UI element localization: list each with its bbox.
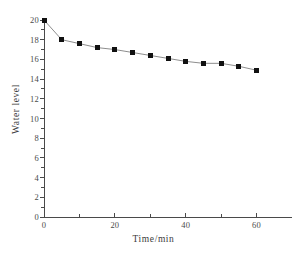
data-point-marker [183,59,188,64]
y-tick-minor [41,207,44,208]
data-point-marker [148,53,153,58]
y-tick-major [40,177,44,178]
x-tick-label: 20 [103,220,127,230]
y-tick-major [40,79,44,80]
data-point-marker [59,37,64,42]
y-tick-label: 10 [30,114,39,124]
data-point-marker [201,61,206,66]
y-tick-label: 20 [30,15,39,25]
x-tick-major [44,213,45,217]
x-tick-label: 40 [174,220,198,230]
data-point-marker [130,50,135,55]
y-tick-major [40,39,44,40]
data-point-marker [95,45,100,50]
y-tick-minor [41,49,44,50]
data-point-marker [219,61,224,66]
y-tick-major [40,98,44,99]
y-tick-minor [41,187,44,188]
y-tick-minor [41,128,44,129]
y-tick-minor [41,88,44,89]
x-tick-major [256,213,257,217]
data-point-marker [77,41,82,46]
x-axis-title: Time/min [0,234,307,244]
y-tick-label: 4 [35,173,39,183]
x-tick-major [185,213,186,217]
y-tick-minor [41,69,44,70]
x-tick-minor [221,214,222,217]
x-tick-label: 0 [32,220,56,230]
x-tick-minor [150,214,151,217]
y-tick-label: 8 [35,133,39,143]
x-axis-line [44,217,292,218]
y-axis-title: Water level [11,49,21,169]
y-tick-label: 12 [30,94,39,104]
y-tick-minor [41,29,44,30]
y-tick-label: 6 [35,153,39,163]
y-tick-major [40,118,44,119]
data-point-marker [112,47,117,52]
y-tick-major [40,157,44,158]
y-tick-label: 14 [30,74,39,84]
y-tick-minor [41,148,44,149]
y-tick-label: 18 [30,35,39,45]
y-tick-major [40,138,44,139]
series-polyline [44,20,257,70]
y-tick-major [40,197,44,198]
y-tick-minor [41,167,44,168]
data-point-marker [254,68,259,73]
y-tick-major [40,59,44,60]
chart-figure: 024681012141618200204060 Time/min Water … [0,0,307,255]
y-tick-minor [41,108,44,109]
x-tick-label: 60 [245,220,269,230]
y-tick-label: 2 [35,192,39,202]
x-tick-minor [79,214,80,217]
x-tick-major [114,213,115,217]
data-point-marker [166,56,171,61]
data-point-marker [42,18,47,23]
y-tick-label: 16 [30,54,39,64]
data-point-marker [236,64,241,69]
